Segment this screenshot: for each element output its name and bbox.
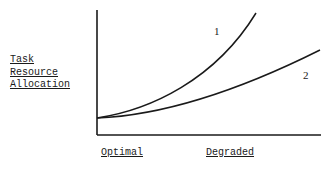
- curve-1-label: 1: [214, 25, 220, 37]
- x-tick-optimal: Optimal: [101, 147, 143, 158]
- curve-1: [97, 13, 256, 118]
- x-tick-degraded: Degraded: [206, 147, 254, 158]
- chart-plot: 1 2: [0, 0, 332, 169]
- curve-2-label: 2: [303, 69, 309, 81]
- curve-2: [97, 50, 320, 118]
